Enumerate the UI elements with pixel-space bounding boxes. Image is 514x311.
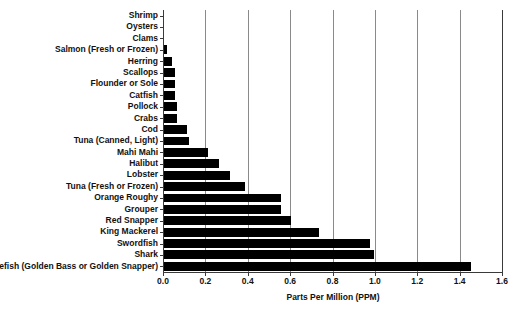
y-axis-label: Halibut [129,158,158,169]
bar [164,91,175,100]
y-axis-label: Tuna (Canned, Light) [74,135,158,146]
y-axis-label: Grouper [124,204,158,215]
chart-row: Swordfish [163,238,502,249]
y-tick [160,152,163,153]
bar [164,216,291,225]
y-tick [160,61,163,62]
chart-row: Tuna (Fresh or Frozen) [163,181,502,192]
y-axis-label: Red Snapper [106,215,158,226]
bar [164,182,245,191]
y-tick [160,255,163,256]
y-tick [160,38,163,39]
y-axis-label: Lobster [127,169,158,180]
x-tick-label-0.6: 0.6 [270,276,310,286]
y-axis-label: Catfish [129,90,158,101]
y-tick [160,266,163,267]
chart-row: Tilefish (Golden Bass or Golden Snapper) [163,261,502,272]
chart-row: Tuna (Canned, Light) [163,135,502,146]
y-tick [160,141,163,142]
y-tick [160,209,163,210]
y-tick [160,164,163,165]
y-tick [160,198,163,199]
bar [164,137,189,146]
bar [164,194,281,203]
y-axis-label: Shark [134,249,158,260]
y-axis-label: Tuna (Fresh or Frozen) [66,181,158,192]
y-tick [160,175,163,176]
chart-row: Crabs [163,113,502,124]
chart-row: Pollock [163,101,502,112]
y-axis-label: Shrimp [129,10,158,21]
chart-row: Orange Roughy [163,192,502,203]
x-tick-label-1.4: 1.4 [440,276,480,286]
y-tick [160,16,163,17]
y-axis-label: Flounder or Sole [90,78,158,89]
chart-row: Halibut [163,158,502,169]
chart-row: Mahi Mahi [163,147,502,158]
x-tick-label-0.2: 0.2 [185,276,225,286]
y-tick [160,232,163,233]
x-tick-label-1.0: 1.0 [355,276,395,286]
bar [164,45,167,54]
y-axis-label: Scallops [123,67,158,78]
y-tick [160,130,163,131]
x-tick-label-0.4: 0.4 [228,276,268,286]
y-tick [160,107,163,108]
y-axis-label: Salmon (Fresh or Frozen) [55,44,158,55]
bar [164,102,177,111]
chart-row: Shrimp [163,10,502,21]
y-axis-label: Swordfish [117,238,158,249]
bar [164,239,370,248]
bar [164,57,172,66]
x-axis-title: Parts Per Million (PPM) [163,292,503,302]
chart-row: Catfish [163,90,502,101]
chart-row: Oysters [163,21,502,32]
chart-row: Cod [163,124,502,135]
chart-row: Shark [163,249,502,260]
chart-row: King Mackerel [163,226,502,237]
y-axis-label: Pollock [128,101,158,112]
plot-area: ShrimpOystersClamsSalmon (Fresh or Froze… [163,10,502,272]
x-tick-label-1.6: 1.6 [482,276,514,286]
chart-row: Grouper [163,204,502,215]
y-tick [160,221,163,222]
bar [164,228,319,237]
bar [164,114,177,123]
x-tick-label-0.8: 0.8 [313,276,353,286]
bar [164,80,175,89]
y-axis-label: Mahi Mahi [117,147,158,158]
x-tick-label-0.0: 0.0 [143,276,183,286]
bar [164,125,187,134]
bar-chart: ShrimpOystersClamsSalmon (Fresh or Froze… [0,0,514,311]
y-axis-label: Tilefish (Golden Bass or Golden Snapper) [0,261,158,272]
chart-row: Red Snapper [163,215,502,226]
y-axis-label: Herring [128,56,158,67]
y-tick [160,118,163,119]
bar [164,262,471,271]
y-axis-label: Oysters [126,21,158,32]
chart-row: Clams [163,33,502,44]
chart-row: Lobster [163,169,502,180]
chart-row: Herring [163,56,502,67]
y-axis-label: King Mackerel [100,226,158,237]
y-tick [160,73,163,74]
y-axis-label: Cod [141,124,158,135]
x-tick-label-1.2: 1.2 [397,276,437,286]
gridline-1.6 [502,10,503,272]
bar [164,68,175,77]
chart-row: Scallops [163,67,502,78]
bar [164,171,230,180]
y-tick [160,187,163,188]
bar [164,250,374,259]
y-tick [160,84,163,85]
y-tick [160,244,163,245]
bar [164,205,281,214]
y-tick [160,95,163,96]
chart-row: Flounder or Sole [163,78,502,89]
y-tick [160,50,163,51]
chart-row: Salmon (Fresh or Frozen) [163,44,502,55]
y-axis-label: Orange Roughy [94,192,158,203]
bar [164,148,208,157]
y-axis-label: Crabs [134,113,158,124]
y-tick [160,27,163,28]
